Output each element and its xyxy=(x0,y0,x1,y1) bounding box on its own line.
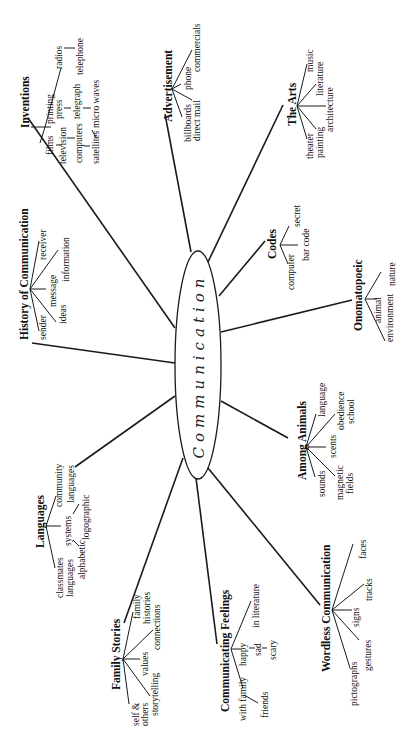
item-computers: computers xyxy=(74,123,84,163)
spoke-among-animals xyxy=(221,401,288,438)
mind-map: Communication Inventions films televisio… xyxy=(0,0,408,737)
topic-label: Languages xyxy=(34,494,47,548)
item-signs: signs xyxy=(351,607,361,627)
item-others: others xyxy=(140,702,150,726)
topic-label: The Arts xyxy=(286,82,298,126)
item-micro-waves: micro waves xyxy=(91,79,101,128)
topic-label: Among Animals xyxy=(296,401,309,480)
item-information: information xyxy=(61,237,71,282)
item-receiver: receiver xyxy=(38,229,48,260)
topic-onomatopoeic: Onomatopoeic environment animal nature xyxy=(352,259,397,342)
topic-label: Family Stories xyxy=(110,618,123,690)
item-animal: animal xyxy=(373,297,383,323)
item-connections: connections xyxy=(152,604,162,650)
item-press: press xyxy=(54,99,64,119)
spoke-communicating-feelings xyxy=(196,478,217,644)
topic-family-stories: Family Stories self & others storytellin… xyxy=(110,592,162,726)
item-films: films xyxy=(45,135,55,155)
topic-label: History of Communication xyxy=(18,208,31,340)
item-friends: friends xyxy=(260,691,270,718)
item-television: television xyxy=(58,127,68,164)
spoke-history xyxy=(32,343,175,363)
item-logographic: logographic xyxy=(81,495,91,540)
item-community: community xyxy=(54,463,64,507)
topic-wordless: Wordless Communication pictographs gestu… xyxy=(320,539,374,706)
item-language: language xyxy=(317,383,327,417)
topic-label: Codes xyxy=(266,228,278,259)
central-node: Communication xyxy=(175,251,221,479)
item-sad: sad xyxy=(253,643,263,656)
item-obedience: obedience xyxy=(336,391,346,430)
spoke-onomatopoeic xyxy=(221,300,352,332)
item-languages-classmates: languages xyxy=(65,559,75,597)
topic-languages: Languages classmates languages alphabeti… xyxy=(34,463,91,598)
topic-codes: Codes computer bar code secret xyxy=(266,204,311,290)
item-classmates: classmates xyxy=(55,557,65,598)
item-sounds: sounds xyxy=(317,470,327,497)
spoke-languages xyxy=(75,396,175,467)
topic-label: Communicating Feelings xyxy=(219,589,232,712)
item-telegraph: telegraph xyxy=(72,83,82,119)
item-storytelling: storytelling xyxy=(150,672,160,716)
center-label: Communication xyxy=(190,274,208,459)
item-family: family xyxy=(132,594,142,619)
item-painting: painting xyxy=(315,127,325,158)
spoke-wordless xyxy=(208,468,320,605)
item-ideas: ideas xyxy=(58,304,68,324)
topic-communicating-feelings: Communicating Feelings with family frien… xyxy=(219,584,278,721)
topic-among-animals: Among Animals sounds magnetic fields sce… xyxy=(296,383,356,500)
item-scents: scents xyxy=(328,434,338,458)
item-in-literature: in literature xyxy=(251,584,261,628)
topic-label: Advertisement xyxy=(162,50,174,122)
item-commercials: commercials xyxy=(192,23,202,72)
item-school: school xyxy=(346,399,356,424)
item-with-family: with family xyxy=(238,677,248,721)
item-happy: happy xyxy=(238,643,248,666)
spoke-codes xyxy=(219,241,265,296)
item-secret: secret xyxy=(292,204,302,227)
item-architecture: architecture xyxy=(325,87,335,132)
item-gestures: gestures xyxy=(363,640,373,671)
item-fields: fields xyxy=(345,473,355,494)
topic-inventions: Inventions films television computers sa… xyxy=(19,38,101,164)
item-telephone: telephone xyxy=(75,38,85,75)
item-satellites: satellites xyxy=(91,130,101,164)
topic-label: Wordless Communication xyxy=(320,544,332,672)
item-direct-mail: direct mail xyxy=(192,100,202,141)
item-languages-community: languages xyxy=(66,465,76,503)
item-theater: theater xyxy=(305,132,315,159)
item-nature: nature xyxy=(387,262,397,286)
item-tracks: tracks xyxy=(364,578,374,601)
item-systems: systems xyxy=(63,516,73,546)
item-music: music xyxy=(305,49,315,72)
item-scary: scary xyxy=(268,640,278,660)
item-bar-code: bar code xyxy=(301,229,311,261)
item-histories: histories xyxy=(142,592,152,624)
topic-label: Inventions xyxy=(19,76,31,128)
item-environment: environment xyxy=(385,294,395,342)
item-sender: sender xyxy=(38,314,48,340)
topic-the-arts: The Arts theater painting architecture l… xyxy=(286,49,335,159)
topic-history: History of Communication sender ideas me… xyxy=(18,208,71,340)
item-magnetic: magnetic xyxy=(335,465,345,500)
item-values: values xyxy=(140,651,150,676)
item-literature: literature xyxy=(315,62,325,96)
item-pictographs: pictographs xyxy=(349,661,359,706)
item-message: message xyxy=(48,275,58,307)
item-faces: faces xyxy=(358,539,368,559)
topic-advertisement: Advertisement billboards direct mail pho… xyxy=(162,23,202,142)
item-computer: computer xyxy=(286,253,296,290)
item-radios: radios xyxy=(54,45,64,69)
topic-label: Onomatopoeic xyxy=(352,259,365,331)
